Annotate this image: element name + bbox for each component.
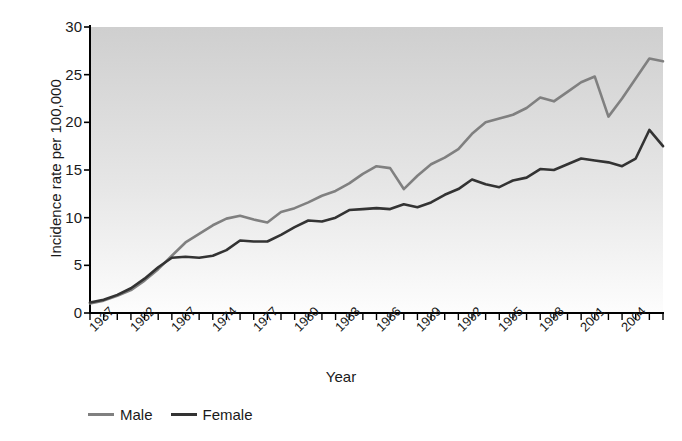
legend-label: Male: [120, 406, 153, 423]
chart-legend: MaleFemale: [88, 406, 253, 423]
x-tick-label: 1992: [454, 304, 485, 335]
x-tick-label: 1989: [413, 304, 444, 335]
legend-line-swatch: [88, 413, 114, 416]
x-tick-label: 1983: [332, 304, 363, 335]
x-tick-label: 2001: [577, 304, 608, 335]
legend-entry[interactable]: Male: [88, 406, 153, 423]
legend-label: Female: [203, 406, 253, 423]
legend-line-swatch: [171, 413, 197, 416]
x-tick-label: 1998: [536, 304, 567, 335]
x-tick-label: 1980: [291, 304, 322, 335]
chart-figure: Incidence rate per 100,000 051015202530 …: [0, 0, 682, 441]
x-tick-label: 1977: [250, 304, 281, 335]
x-tick-label: 1986: [373, 304, 404, 335]
x-tick-label: 1967: [168, 304, 199, 335]
x-tick-label: 1974: [209, 304, 240, 335]
x-tick-label: 1995: [495, 304, 526, 335]
x-axis-title: Year: [0, 368, 682, 385]
legend-entry[interactable]: Female: [171, 406, 253, 423]
x-tick-label: 2004: [618, 304, 649, 335]
x-tick-label: 1937: [86, 304, 117, 335]
x-tick-label: 1952: [127, 304, 158, 335]
